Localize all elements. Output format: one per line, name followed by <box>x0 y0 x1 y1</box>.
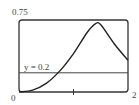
function-curve <box>19 23 128 92</box>
y-max-label: 0.75 <box>12 8 28 17</box>
chart-frame <box>19 20 128 92</box>
x-min-label: 0 <box>11 94 16 103</box>
x-max-label: 2 <box>132 91 137 100</box>
hline-label: y = 0.2 <box>24 63 49 72</box>
